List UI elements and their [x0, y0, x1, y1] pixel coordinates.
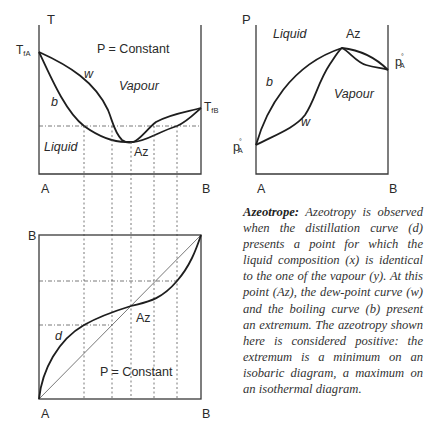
tfa-label: TfA	[16, 43, 30, 58]
tx-condition-label: P = Constant	[97, 42, 170, 56]
tx-azeotrope-label: Az	[134, 145, 149, 159]
px-x-right-label: B	[389, 182, 397, 196]
px-left-pressure-label: p°A	[233, 138, 243, 155]
px-curve-w-label: w	[301, 115, 311, 129]
tx-x-left-label: A	[41, 182, 50, 196]
tx-diagram: T P = Constant TfA TfB w b Vapour Liquid…	[16, 12, 218, 399]
tie-guides	[84, 126, 177, 399]
tx-x-right-label: B	[202, 182, 210, 196]
px-diagram: P Liquid Az b Vapour w p°A p°A A B	[233, 12, 405, 196]
tx-boiling-curve-b	[39, 52, 201, 142]
px-vapour-label: Vapour	[334, 87, 375, 101]
yx-diagram: B d Az P = Constant A B	[28, 229, 210, 421]
px-curve-b-label: b	[266, 75, 273, 89]
caption: Azeotrope: Azeotropy is observed when th…	[243, 204, 423, 397]
caption-body: Azeotropy is observed when the distillat…	[243, 205, 423, 396]
tfb-label: TfB	[204, 100, 218, 115]
tx-vapour-label: Vapour	[119, 79, 160, 93]
yx-curve-d-label: d	[55, 329, 63, 343]
px-axis-label: P	[242, 12, 251, 27]
px-right-pressure-label: p°A	[395, 53, 405, 70]
tx-curve-w-label: w	[84, 67, 94, 81]
yx-azeotrope-label: Az	[136, 311, 151, 325]
yx-condition-label: P = Constant	[100, 365, 173, 379]
tx-axis-label: T	[47, 12, 55, 27]
yx-x-right-label: B	[202, 407, 210, 421]
px-azeotrope-label: Az	[346, 27, 361, 41]
px-x-left-label: A	[257, 182, 266, 196]
caption-title: Azeotrope:	[243, 205, 299, 219]
tx-dew-curve-w	[39, 52, 201, 143]
tx-curve-b-label: b	[51, 95, 58, 109]
yx-x-left-label: A	[41, 407, 50, 421]
tx-liquid-label: Liquid	[44, 140, 78, 154]
yx-y-top-label: B	[28, 229, 36, 243]
px-liquid-label: Liquid	[273, 27, 307, 41]
